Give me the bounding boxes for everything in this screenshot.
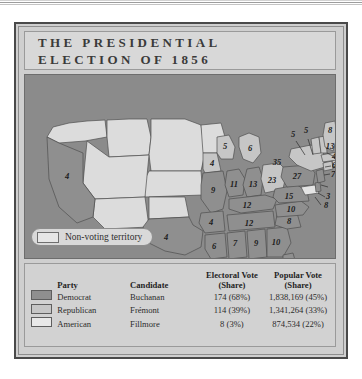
- table-row: Republican Frémont 114 (39%) 1,341,264 (…: [25, 304, 335, 318]
- vote-label-tennessee: 12: [245, 218, 254, 228]
- state-delaware: [315, 182, 321, 192]
- row-candidate: Buchanan: [130, 290, 203, 304]
- table-row: Democrat Buchanan 174 (68%) 1,838,169 (4…: [25, 290, 335, 304]
- vote-label-indiana: 13: [249, 179, 258, 189]
- table-body: Democrat Buchanan 174 (68%) 1,838,169 (4…: [25, 290, 335, 331]
- header-popular-line2: (Share): [261, 281, 335, 291]
- table-row: American Fillmore 8 (3%) 874,534 (22%): [25, 317, 335, 331]
- figure-frame: THE PRESIDENTIAL ELECTION OF 1856 .st{st…: [14, 22, 348, 359]
- row-electoral: 174 (68%): [203, 290, 261, 304]
- results-table: Party Candidate Electoral Vote (Share) P…: [25, 264, 335, 331]
- row-swatch-cell: [25, 290, 57, 304]
- vote-label-california: 4: [64, 171, 69, 181]
- row-electoral: 114 (39%): [203, 304, 261, 318]
- vote-label-new-jersey: 7: [331, 169, 336, 179]
- header-electoral-vote: Electoral Vote (Share): [203, 264, 261, 290]
- row-swatch-cell: [25, 317, 57, 331]
- vote-label-arkansas: 4: [208, 217, 213, 227]
- state-new-jersey: [316, 169, 325, 183]
- page-title: THE PRESIDENTIAL ELECTION OF 1856: [24, 31, 336, 70]
- vote-label-iowa: 4: [209, 158, 214, 168]
- row-popular: 874,534 (22%): [261, 317, 335, 331]
- scan-artifact-line: [0, 2, 362, 3]
- scan-artifact-line: [0, 0, 362, 1]
- row-candidate: Fillmore: [130, 317, 203, 331]
- header-popular-vote: Popular Vote (Share): [261, 264, 335, 290]
- row-party: Democrat: [57, 290, 130, 304]
- election-map-figure: THE PRESIDENTIAL ELECTION OF 1856 .st{st…: [0, 0, 362, 379]
- vote-label-virginia: 15: [285, 191, 294, 201]
- row-electoral: 8 (3%): [203, 317, 261, 331]
- vote-label-illinois: 11: [230, 179, 238, 189]
- party-color-swatch-democrat: [31, 290, 52, 300]
- vote-label-north-carolina: 10: [287, 204, 296, 214]
- title-line-1: THE PRESIDENTIAL: [38, 34, 335, 51]
- row-party: Republican: [57, 304, 130, 318]
- row-popular: 1,341,264 (33%): [261, 304, 335, 318]
- vote-label-massachusetts: 13: [326, 141, 335, 151]
- non-voting-territory-swatch: [37, 232, 59, 243]
- header-swatch: [25, 264, 57, 290]
- vote-label-ohio: 23: [267, 175, 277, 185]
- row-candidate: Frémont: [130, 304, 203, 318]
- us-electoral-map: .st{stroke:#4f4f4f;stroke-width:0.7;} .d…: [24, 74, 336, 259]
- party-color-swatch-american: [31, 317, 52, 327]
- vote-label-connecticut: 6: [332, 160, 336, 170]
- table-header-row: Party Candidate Electoral Vote (Share) P…: [25, 264, 335, 290]
- header-party: Party: [57, 264, 130, 290]
- title-line-2: ELECTION OF 1856: [38, 51, 335, 68]
- row-swatch-cell: [25, 304, 57, 318]
- vote-label-kentucky: 12: [243, 200, 252, 210]
- vote-label-rhode-island: 4: [331, 151, 336, 161]
- scan-artifact-line: [0, 4, 362, 5]
- vote-label-delaware: 3: [325, 191, 331, 201]
- party-color-swatch-republican: [31, 304, 52, 314]
- vote-label-new-york: 35: [272, 157, 282, 167]
- vote-label-georgia: 10: [272, 237, 281, 247]
- header-electoral-line2: (Share): [203, 281, 261, 291]
- map-legend-label: Non-voting territory: [65, 232, 142, 242]
- results-table-panel: Party Candidate Electoral Vote (Share) P…: [24, 263, 336, 347]
- vote-label-pennsylvania: 27: [292, 171, 302, 181]
- row-popular: 1,838,169 (45%): [261, 290, 335, 304]
- vote-label-florida: 3: [288, 257, 294, 259]
- row-party: American: [57, 317, 130, 331]
- map-legend: Non-voting territory: [31, 228, 153, 246]
- header-candidate: Candidate: [130, 264, 203, 290]
- vote-label-texas: 4: [163, 232, 168, 242]
